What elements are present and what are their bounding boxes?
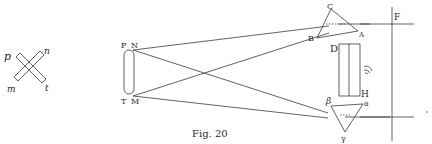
label-P: P bbox=[121, 41, 127, 50]
label-B: B bbox=[308, 34, 314, 43]
label-C: C bbox=[327, 2, 333, 11]
label-H: H bbox=[361, 89, 369, 99]
figure-20-diagram: p n m t P N T M C B A β α γ D H F Fig. 2… bbox=[0, 0, 432, 144]
label-n: n bbox=[44, 46, 50, 56]
crossed-rods bbox=[14, 51, 46, 83]
label-N: N bbox=[131, 41, 138, 50]
label-A: A bbox=[358, 31, 365, 39]
label-D: D bbox=[330, 43, 338, 54]
lower-prism bbox=[331, 104, 363, 132]
upper-prism bbox=[317, 9, 358, 38]
figure-caption: Fig. 20 bbox=[192, 128, 228, 139]
label-gamma: γ bbox=[341, 134, 346, 143]
diagram-svg: p n m t P N T M C B A β α γ D H F Fig. 2… bbox=[0, 0, 432, 144]
screen bbox=[339, 44, 360, 96]
eye-icon bbox=[364, 66, 372, 74]
label-alpha: α bbox=[364, 100, 369, 108]
label-beta: β bbox=[325, 96, 331, 106]
label-F: F bbox=[394, 12, 400, 22]
label-t: t bbox=[45, 83, 49, 93]
label-m: m bbox=[7, 84, 16, 94]
label-p: p bbox=[4, 50, 11, 63]
vertical-rod bbox=[124, 50, 134, 94]
label-M: M bbox=[131, 97, 139, 106]
light-rays bbox=[133, 26, 329, 118]
label-T: T bbox=[121, 97, 127, 106]
